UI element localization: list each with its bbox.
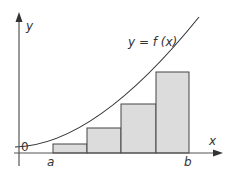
rectangle-2 <box>87 128 121 153</box>
x-axis-arrow-icon <box>213 150 223 157</box>
x-axis-label: x <box>208 134 217 148</box>
rectangle-3 <box>121 104 156 153</box>
y-axis-arrow-icon <box>16 12 23 22</box>
riemann-sum-diagram: y x 0 y = f (x) a b <box>0 0 233 172</box>
origin-label: 0 <box>21 140 29 154</box>
curve-label: y = f (x) <box>127 35 177 49</box>
rectangle-4 <box>156 72 189 153</box>
b-label: b <box>184 155 192 169</box>
a-label: a <box>47 155 54 169</box>
diagram-canvas: y x 0 y = f (x) a b <box>0 0 233 172</box>
rectangle-1 <box>53 144 87 153</box>
y-axis-label: y <box>25 19 34 33</box>
rectangles <box>53 72 189 153</box>
